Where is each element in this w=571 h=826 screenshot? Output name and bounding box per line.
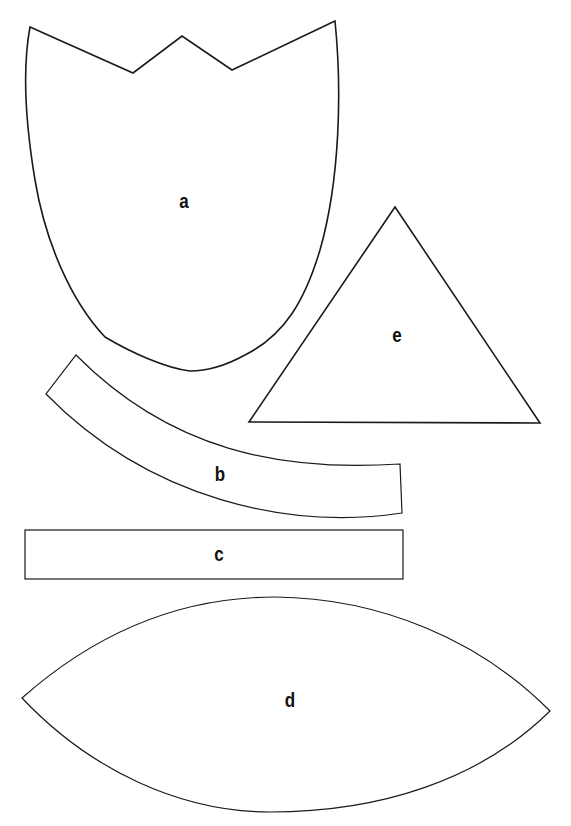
shape-c-label: c: [214, 544, 223, 564]
shape-e-label: e: [392, 325, 401, 345]
shape-a-label: a: [179, 191, 188, 211]
shape-d-label: d: [285, 690, 295, 710]
shape-b-label: b: [215, 464, 225, 484]
